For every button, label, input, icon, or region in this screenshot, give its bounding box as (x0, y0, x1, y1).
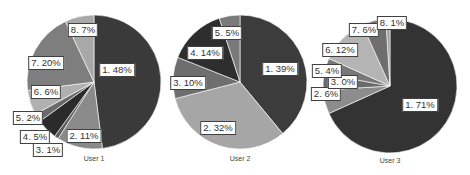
chart-title-user-2: User 2 (230, 155, 251, 162)
slice-label: 1. 39% (262, 62, 298, 76)
slice-label: 6. 12% (322, 43, 358, 57)
slice-label: 2. 6% (311, 87, 341, 101)
slice-label: 7. 20% (28, 56, 64, 70)
slice-label: 1. 48% (99, 63, 135, 77)
slice-label: 2. 11% (67, 129, 102, 143)
slice-label: 4. 14% (187, 46, 223, 60)
slice-label: 5. 5% (212, 26, 242, 40)
pie-slice (94, 15, 161, 148)
slice-label: 7. 6% (349, 23, 379, 37)
slice-label: 1. 71% (402, 98, 438, 112)
slice-label: 8. 1% (377, 16, 407, 30)
chart-title-user-3: User 3 (380, 157, 401, 164)
slice-label: 3. 10% (170, 76, 206, 90)
slice-label: 3. 1% (33, 143, 63, 157)
slice-label: 5. 2% (13, 111, 43, 125)
pie-charts-figure: User 1 User 2 User 3 1. 48%2. 11%3. 1%4.… (0, 0, 470, 175)
chart-title-user-1: User 1 (84, 155, 105, 162)
slice-label: 6. 6% (31, 85, 61, 99)
slice-label: 5. 4% (312, 64, 342, 78)
slice-label: 2. 32% (200, 121, 236, 135)
slice-label: 4. 5% (20, 130, 50, 144)
slice-label: 8. 7% (68, 23, 98, 37)
